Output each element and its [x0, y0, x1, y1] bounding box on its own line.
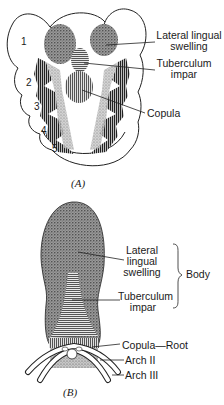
right-arch-shading	[90, 58, 130, 154]
label-line: impar	[118, 302, 168, 313]
caption-a: (A)	[71, 177, 85, 189]
label-lateral-lingual-swelling-a: Lateral lingual swelling	[154, 30, 224, 52]
tuberculum-impar-a	[71, 48, 89, 72]
label-tuberculum-impar-b: Tuberculum impar	[118, 291, 168, 313]
label-line: swelling	[120, 267, 164, 278]
arch-iii-text: Arch III	[125, 369, 158, 381]
figure-b-tongue	[28, 202, 118, 380]
arch-number-1: 1	[21, 36, 27, 47]
arch-number-2: 2	[26, 77, 32, 88]
label-copula-root: Copula—Root	[122, 340, 188, 351]
arch-number-5: 5	[52, 143, 58, 154]
arch-number-4: 4	[41, 125, 47, 136]
label-arch-iii: Arch III	[125, 370, 158, 381]
caption-b: (B)	[63, 386, 77, 398]
label-tuberculum-impar-a: Tuberculum impar	[154, 58, 214, 80]
copula-a	[65, 71, 93, 103]
label-line: swelling	[154, 41, 224, 52]
arch-number-3: 3	[34, 101, 40, 112]
lateral-lingual-swelling-right-a	[90, 24, 118, 56]
label-body: Body	[186, 269, 210, 280]
arch-ii-text: Arch II	[125, 354, 155, 366]
label-line: impar	[154, 69, 214, 80]
label-arch-ii: Arch II	[125, 355, 155, 366]
label-lateral-lingual-swelling-b: Lateral lingual swelling	[120, 245, 164, 278]
label-copula-a: Copula	[147, 108, 180, 119]
body-brace	[173, 244, 182, 308]
